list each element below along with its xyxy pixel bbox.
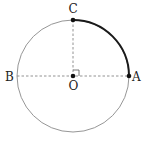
point-o <box>71 74 76 79</box>
circle-diagram: C O A B <box>0 0 148 141</box>
label-o: O <box>69 79 79 93</box>
point-a <box>127 74 132 79</box>
label-b: B <box>5 70 14 84</box>
point-c <box>71 18 76 23</box>
arc-ca <box>73 20 129 76</box>
label-a: A <box>131 70 141 84</box>
label-c: C <box>69 2 78 16</box>
